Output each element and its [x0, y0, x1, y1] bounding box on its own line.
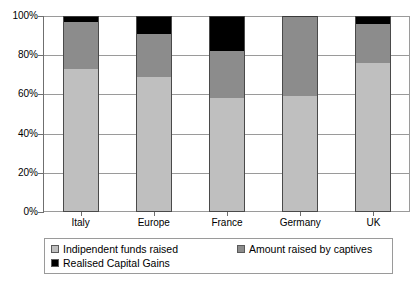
bar-segment[interactable] [355, 16, 391, 24]
bar-segment[interactable] [355, 63, 391, 212]
x-axis-tick [81, 212, 82, 216]
legend-item[interactable]: Indipendent funds raised [51, 243, 178, 255]
y-axis-tick [38, 173, 44, 174]
bar-segment[interactable] [63, 22, 99, 69]
x-axis-tick [154, 212, 155, 216]
bar-segment[interactable] [209, 98, 245, 212]
legend-item[interactable]: Amount raised by captives [237, 243, 372, 255]
x-axis-tick [300, 212, 301, 216]
bar-segment[interactable] [63, 69, 99, 212]
bar-segment[interactable] [282, 16, 318, 96]
legend-label: Amount raised by captives [249, 243, 372, 255]
bar-group[interactable] [355, 16, 391, 212]
chart-legend: Indipendent funds raisedAmount raised by… [44, 238, 393, 274]
bar-segment[interactable] [136, 77, 172, 212]
y-axis-tick-label: 40% [2, 129, 38, 139]
y-axis-tick-label: 80% [2, 50, 38, 60]
legend-swatch-icon [51, 245, 59, 253]
y-axis-tick [38, 134, 44, 135]
legend-label: Indipendent funds raised [63, 243, 178, 255]
y-axis-tick [38, 94, 44, 95]
y-axis-tick-label: 60% [2, 89, 38, 99]
x-axis-tick [373, 212, 374, 216]
bar-group[interactable] [282, 16, 318, 212]
legend-label: Realised Capital Gains [63, 257, 170, 269]
legend-swatch-icon [237, 245, 245, 253]
bar-segment[interactable] [63, 16, 99, 22]
x-axis-category-label: France [190, 217, 263, 229]
y-axis-tick [38, 55, 44, 56]
bar-segment[interactable] [209, 51, 245, 98]
x-axis-labels: ItalyEuropeFranceGermanyUK [44, 217, 410, 231]
y-axis-tick-label: 0% [2, 207, 38, 217]
plot-area [44, 16, 410, 212]
y-axis-tick [38, 212, 44, 213]
y-axis-tick-label: 100% [2, 11, 38, 21]
y-axis-labels: 100%80%60%40%20%0% [0, 16, 38, 212]
x-axis-category-label: Germany [264, 217, 337, 229]
bar-segment[interactable] [209, 16, 245, 51]
bar-segment[interactable] [282, 96, 318, 212]
legend-item[interactable]: Realised Capital Gains [51, 257, 170, 269]
bar-group[interactable] [209, 16, 245, 212]
bar-segment[interactable] [355, 24, 391, 63]
legend-swatch-icon [51, 259, 59, 267]
x-axis-category-label: Italy [44, 217, 117, 229]
y-axis-tick [38, 16, 44, 17]
x-axis-category-label: Europe [117, 217, 190, 229]
bar-group[interactable] [136, 16, 172, 212]
bar-segment[interactable] [136, 16, 172, 34]
x-axis-category-label: UK [337, 217, 410, 229]
y-axis-tick-label: 20% [2, 168, 38, 178]
bar-segment[interactable] [136, 34, 172, 77]
stacked-bar-chart: 100%80%60%40%20%0% ItalyEuropeFranceGerm… [0, 0, 417, 281]
x-axis-tick [227, 212, 228, 216]
bar-group[interactable] [63, 16, 99, 212]
